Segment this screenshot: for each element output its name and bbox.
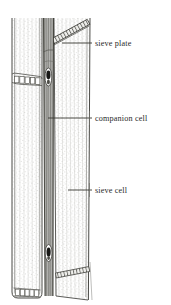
label-sieve-cell-text: sieve cell [95, 186, 128, 195]
sieve-pore [30, 77, 34, 84]
label-companion-cell-text: companion cell [95, 114, 148, 123]
sieve-pore [15, 76, 19, 83]
companion-cell [44, 18, 54, 296]
nucleus-lower [45, 245, 52, 262]
right-cell-lumen [54, 18, 90, 300]
bottom-sieve-plate-left [14, 288, 41, 297]
label-sieve-plate-text: sieve plate [95, 39, 132, 48]
sieve-pore [20, 77, 24, 84]
nucleus-upper [45, 68, 52, 86]
partial-third-cell [90, 262, 92, 300]
left-sieve-cell [12, 18, 42, 298]
companion-cell-right-wall [53, 18, 54, 296]
right-sieve-cell [54, 18, 90, 300]
phloem-diagram-svg: sieve plate companion cell sieve cell [0, 0, 171, 305]
sieve-pore [25, 77, 29, 84]
left-cell-lumen [12, 18, 42, 298]
figure-container: sieve plate companion cell sieve cell [0, 0, 171, 305]
sieve-pore [36, 78, 40, 85]
